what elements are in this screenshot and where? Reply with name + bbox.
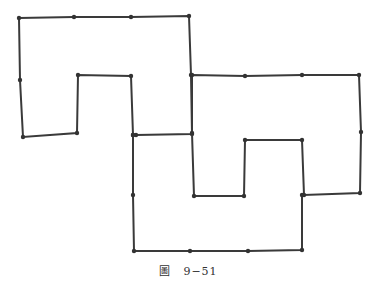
vertex-dot (187, 14, 191, 18)
vertex-dot (17, 16, 21, 20)
vertex-dot (242, 194, 246, 198)
vertex-dot (131, 193, 135, 197)
shape-bottom (131, 133, 304, 253)
vertex-dot (246, 249, 250, 253)
shape-right (190, 73, 363, 198)
vertex-dot (21, 135, 25, 139)
outline (192, 75, 361, 196)
vertex-dot (18, 78, 22, 82)
vertex-dot (300, 193, 304, 197)
vertex-dot (359, 130, 363, 134)
vertex-dot (131, 133, 135, 137)
vertex-dot (300, 248, 304, 252)
vertex-dot (129, 15, 133, 19)
vertex-dot (300, 138, 304, 142)
outline (133, 135, 302, 251)
vertex-dot (76, 73, 80, 77)
figure-caption: 圖 9−51 (0, 262, 377, 278)
vertex-dot (129, 74, 133, 78)
vertex-dot (132, 249, 136, 253)
vertex-dot (188, 249, 192, 253)
vertex-dot (243, 138, 247, 142)
vertex-dot (190, 73, 194, 77)
vertex-dot (300, 73, 304, 77)
vertex-dot (358, 191, 362, 195)
outline (19, 16, 192, 137)
figure-diagram (0, 0, 377, 260)
vertex-dot (190, 131, 194, 135)
vertex-dot (72, 15, 76, 19)
vertex-dot (192, 194, 196, 198)
vertex-dot (357, 73, 361, 77)
vertex-dot (75, 131, 79, 135)
vertex-dot (243, 74, 247, 78)
shape-upper-left (17, 14, 194, 139)
